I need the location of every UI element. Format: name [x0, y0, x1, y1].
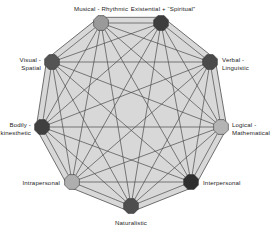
- graph-canvas: [0, 0, 272, 234]
- node-existential-spiritual[interactable]: [154, 16, 169, 31]
- node-visual-spatial[interactable]: [45, 55, 60, 70]
- multiple-intelligences-diagram: Musical - RhythmicExistential + “Spiritu…: [0, 0, 272, 234]
- node-interpersonal[interactable]: [184, 175, 199, 190]
- node-bodily-kinesthetic[interactable]: [35, 120, 50, 135]
- node-verbal-linguistic[interactable]: [203, 55, 218, 70]
- node-naturalistic[interactable]: [124, 199, 139, 214]
- node-intrapersonal[interactable]: [65, 175, 80, 190]
- node-musical-rhythmic[interactable]: [94, 16, 109, 31]
- node-logical-mathematical[interactable]: [214, 120, 229, 135]
